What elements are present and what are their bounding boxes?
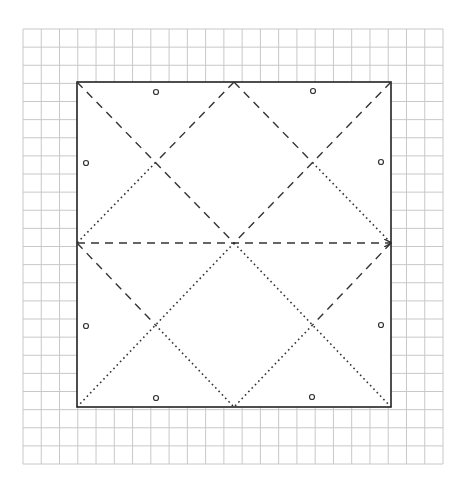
circle-marker-icon — [310, 395, 315, 400]
diagram-canvas — [0, 0, 466, 486]
circle-marker-icon — [379, 160, 384, 165]
circle-marker-icon — [154, 90, 159, 95]
circle-marker-icon — [379, 323, 384, 328]
circle-marker-icon — [154, 396, 159, 401]
circle-marker-icon — [84, 324, 89, 329]
circle-marker-icon — [311, 89, 316, 94]
circle-marker-icon — [84, 161, 89, 166]
crease-pattern-diagram — [0, 0, 466, 486]
